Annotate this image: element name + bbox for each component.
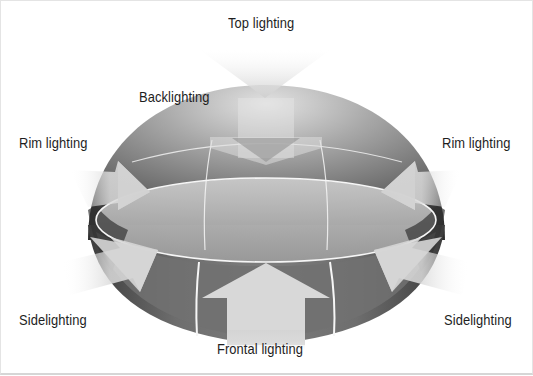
label-rim-lighting-left: Rim lighting — [19, 134, 87, 151]
label-rim-lighting-right: Rim lighting — [442, 134, 510, 151]
label-backlighting: Backlighting — [139, 88, 210, 105]
label-sidelighting-left: Sidelighting — [19, 311, 87, 328]
label-top-lighting: Top lighting — [228, 14, 294, 31]
label-frontal-lighting: Frontal lighting — [217, 340, 303, 357]
label-sidelighting-right: Sidelighting — [444, 311, 512, 328]
